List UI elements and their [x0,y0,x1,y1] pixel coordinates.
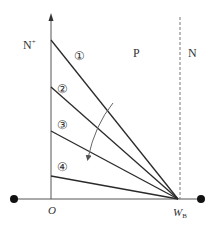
region-label-p: P [133,46,140,60]
profile-line-2 [51,87,178,199]
region-label-n-plus: N+ [23,38,36,52]
diagram-canvas: N+ P N ① ② ③ ④ O WB [0,0,218,231]
profile-line-3 [51,131,178,199]
profile-line-1 [51,40,178,199]
right-terminal-dot [197,195,205,203]
origin-label: O [48,204,56,216]
wb-label: WB [173,206,187,220]
vertical-axis-arrow-icon [49,13,54,21]
curve-label-1: ① [74,49,85,63]
region-label-n: N [188,46,197,60]
curve-label-3: ③ [57,118,68,132]
curve-label-2: ② [57,82,68,96]
left-terminal-dot [10,195,18,203]
curve-label-4: ④ [57,160,68,174]
profile-line-4 [51,176,178,199]
